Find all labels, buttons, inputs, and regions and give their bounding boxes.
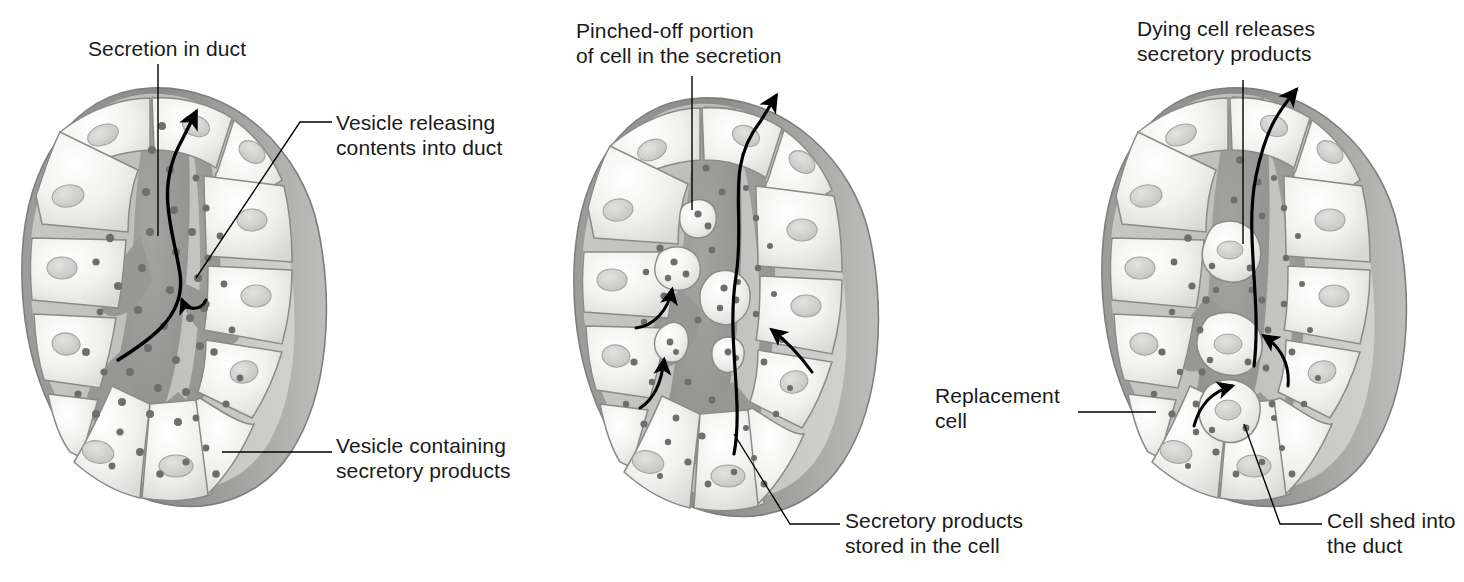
label-vesicle-releasing-contents: Vesicle releasing contents into duct (336, 110, 502, 160)
label-dying-cell-releases: Dying cell releases secretory products (1137, 16, 1315, 66)
apocrine-gland-drawing (574, 76, 878, 524)
merocrine-gland-drawing (22, 64, 332, 506)
gland-diagram-artwork (0, 0, 1464, 582)
label-replacement-cell: Replacement cell (935, 383, 1060, 433)
label-pinched-off-portion: Pinched-off portion of cell in the secre… (576, 18, 782, 68)
holocrine-gland-drawing (1078, 80, 1406, 524)
label-cell-shed-into-duct: Cell shed into the duct (1327, 508, 1456, 558)
figure-canvas: Secretion in duct Vesicle releasing cont… (0, 0, 1464, 582)
label-secretory-products-stored: Secretory products stored in the cell (845, 508, 1023, 558)
label-secretion-in-duct: Secretion in duct (88, 36, 246, 61)
label-vesicle-containing-products: Vesicle containing secretory products (336, 433, 511, 483)
